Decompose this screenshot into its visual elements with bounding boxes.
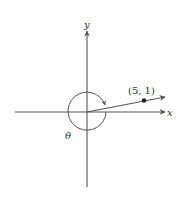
angle-diagram: (5, 1) x y θ — [0, 0, 181, 201]
x-axis-label: x — [167, 107, 173, 118]
terminal-ray — [87, 97, 165, 112]
theta-label: θ — [65, 130, 71, 141]
y-axis-label: y — [83, 19, 90, 30]
point-dot — [142, 98, 146, 102]
point-label: (5, 1) — [128, 85, 155, 96]
